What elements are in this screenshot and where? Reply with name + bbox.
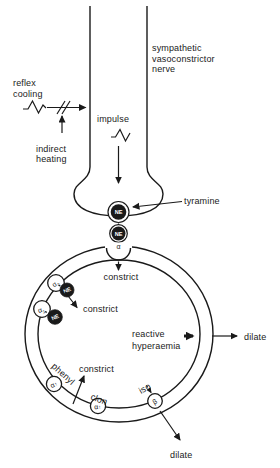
ne-vesicle-2: NE bbox=[110, 225, 128, 243]
reflex-cooling-line2: cooling bbox=[13, 89, 43, 99]
nerve-label-line2: vasoconstrictor bbox=[152, 54, 215, 64]
dilate-right-label: dilate bbox=[244, 332, 266, 342]
dilate-bottom-label: dilate bbox=[170, 450, 192, 460]
nerve-label: sympathetic vasoconstrictor nerve bbox=[152, 43, 215, 74]
reactive-hyperaemia-label: reactive hyperaemia bbox=[132, 329, 181, 351]
iso-label: iso bbox=[137, 381, 152, 396]
constrict-top-label: constrict bbox=[104, 272, 139, 282]
ne-vesicle-2-label: NE bbox=[115, 231, 123, 237]
nerve-terminal-outline bbox=[74, 6, 163, 216]
ne-granule-lower: NE bbox=[48, 310, 63, 325]
cooling-waveform-icon bbox=[23, 101, 46, 113]
indirect-heating-label: indirect heating bbox=[36, 144, 67, 164]
alpha-receptor-label: α bbox=[116, 243, 120, 250]
reactive-hyperaemia-line1: reactive bbox=[132, 329, 165, 339]
reactive-hyperaemia-line2: hyperaemia bbox=[132, 341, 181, 351]
blocked-pathway-arrow bbox=[47, 101, 86, 114]
indirect-heating-line1: indirect bbox=[36, 144, 67, 154]
diagram-canvas: sympathetic vasoconstrictor nerve reflex… bbox=[0, 0, 280, 468]
reflex-cooling-line1: reflex bbox=[13, 78, 36, 88]
dilate-bottom-arrow bbox=[160, 411, 180, 440]
ne-vesicle-1-label: NE bbox=[115, 209, 123, 215]
tyramine-label: tyramine bbox=[184, 196, 220, 206]
constrict-upper-left-label: constrict bbox=[83, 304, 118, 314]
nerve-label-line3: nerve bbox=[152, 64, 175, 74]
impulse-label: impulse bbox=[97, 114, 129, 124]
indirect-heating-line2: heating bbox=[36, 154, 67, 164]
constrict-lower-label: constrict bbox=[79, 364, 114, 374]
reflex-cooling-label: reflex cooling bbox=[13, 78, 43, 99]
ne-vesicle-1: NE bbox=[108, 202, 129, 223]
impulse-waveform-icon bbox=[111, 130, 130, 142]
nerve-label-line1: sympathetic bbox=[152, 43, 202, 53]
